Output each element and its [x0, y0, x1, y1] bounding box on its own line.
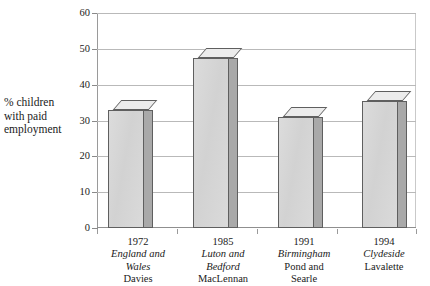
y-tick-label-10: 10: [64, 187, 90, 198]
y-axis-title-line-1: % children: [4, 96, 90, 110]
bar-chart: % children with paid employment 60 50 40…: [0, 0, 430, 286]
gridline-60: [97, 13, 416, 14]
x-tick-mark-1: [177, 229, 178, 234]
x-label-1994-year: 1994: [332, 236, 430, 248]
x-label-1991-author-line-2: Searle: [252, 273, 356, 285]
y-tick-label-60: 60: [64, 8, 90, 19]
x-label-1994-place: Clydeside: [332, 248, 430, 260]
x-tick-mark-0: [97, 229, 98, 234]
y-tick-label-40: 40: [64, 80, 90, 91]
bar-1985-top: [198, 48, 243, 58]
y-tick-label-0: 0: [64, 223, 90, 234]
y-tick-label-30: 30: [64, 116, 90, 127]
bar-1972-top: [113, 100, 158, 110]
x-tick-mark-2: [257, 229, 258, 234]
bar-1985-side: [229, 58, 238, 228]
gridline-50: [97, 49, 416, 50]
bar-1991-front: [278, 117, 314, 228]
x-tick-mark-4: [416, 229, 417, 234]
plot-area: [97, 13, 416, 228]
bar-1994-side: [398, 101, 407, 228]
x-label-1994: 1994 Clydeside Lavalette: [332, 236, 430, 273]
x-label-1994-author: Lavalette: [332, 261, 430, 273]
bar-1972-side: [144, 110, 153, 228]
bar-1991-top: [283, 107, 328, 117]
y-tick-label-50: 50: [64, 44, 90, 55]
bar-1972-front: [108, 110, 144, 228]
bar-1994-front: [362, 101, 398, 228]
bar-1991-side: [314, 117, 323, 228]
bar-1985-front: [193, 58, 229, 228]
x-tick-mark-3: [337, 229, 338, 234]
bar-1994-top: [367, 91, 412, 101]
gridline-40: [97, 85, 416, 86]
y-tick-label-20: 20: [64, 151, 90, 162]
